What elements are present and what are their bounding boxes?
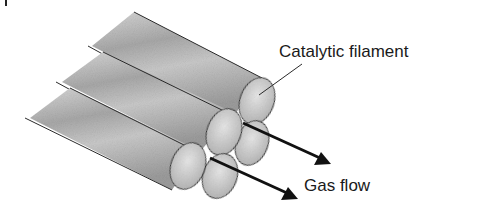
catalytic-filament-diagram: Catalytic filament Gas flow xyxy=(0,0,486,214)
catalytic-filament-label: Catalytic filament xyxy=(279,42,409,61)
gas-flow-label: Gas flow xyxy=(304,176,371,195)
